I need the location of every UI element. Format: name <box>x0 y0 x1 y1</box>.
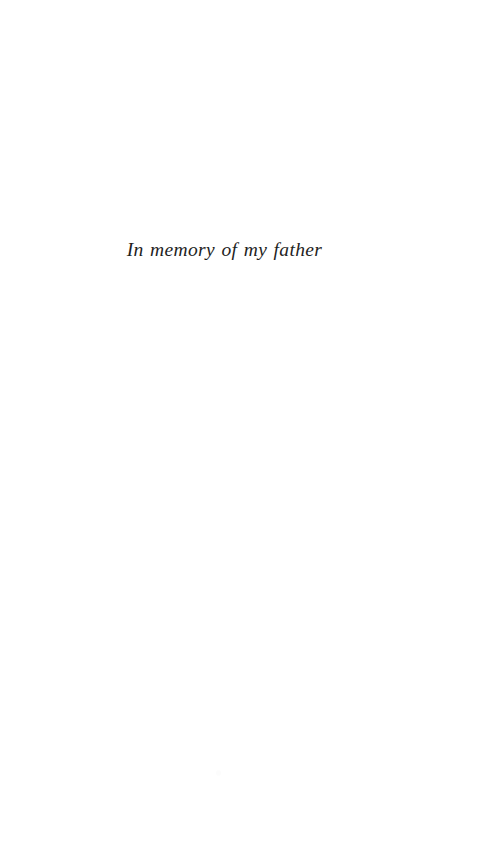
dedication-block: In memory of my father <box>0 236 449 263</box>
dedication-page: In memory of my father <box>0 0 495 858</box>
scan-artifact-speck <box>216 770 221 776</box>
dedication-text: In memory of my father <box>127 236 323 263</box>
